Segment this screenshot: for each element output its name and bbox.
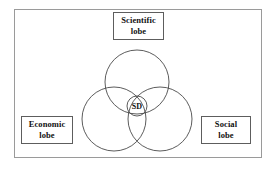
scientific-lobe-label-box: Scientific lobe	[113, 12, 164, 40]
economic-lobe-label-box: Economic lobe	[21, 116, 73, 144]
social-lobe-label-box: Social lobe	[201, 116, 251, 144]
economic-lobe-label: Economic lobe	[29, 119, 66, 140]
social-lobe-circle	[128, 87, 192, 151]
social-lobe-label: Social lobe	[215, 119, 237, 140]
sd-center-label: SD	[127, 100, 147, 113]
diagram-page: Scientific lobe Economic lobe Social lob…	[0, 0, 275, 170]
scientific-lobe-label: Scientific lobe	[121, 15, 156, 36]
economic-lobe-circle	[82, 87, 146, 151]
